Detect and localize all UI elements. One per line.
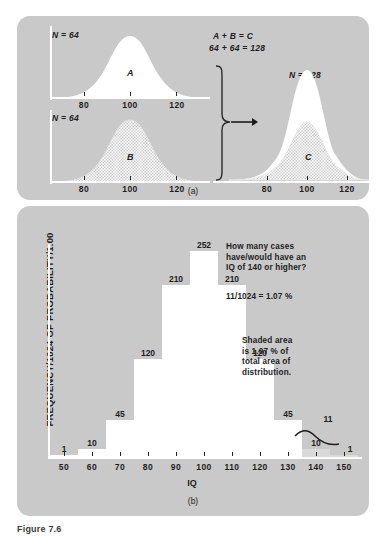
histogram-x-tick-150 — [344, 452, 345, 456]
histogram-x-ticklabel-80: 80 — [136, 462, 160, 472]
histogram-bar-label-60: 10 — [78, 438, 106, 448]
curve-b-tick-80 — [84, 176, 85, 180]
histogram-x-tick-100 — [204, 452, 205, 456]
shaded-note-line-1: Shaded area — [242, 336, 292, 347]
curve-c-ticklabel-120: 120 — [335, 184, 359, 194]
histogram-x-ticklabel-50: 50 — [52, 462, 76, 472]
histogram-x-ticklabel-110: 110 — [220, 462, 244, 472]
histogram-x-ticklabel-100: 100 — [192, 462, 216, 472]
histogram-x-tick-80 — [148, 452, 149, 456]
curve-a-letter: A — [127, 68, 134, 78]
curve-c-letter: C — [305, 152, 312, 162]
curve-c-combined-distribution — [213, 64, 371, 182]
histogram-x-ticklabel-140: 140 — [304, 462, 328, 472]
curve-b-tick-120 — [176, 176, 177, 180]
histogram-bar-label-80: 120 — [134, 348, 162, 358]
histogram-x-tick-90 — [176, 452, 177, 456]
curve-b-ticklabel-80: 80 — [73, 184, 95, 194]
histogram-x-tick-140 — [316, 452, 317, 456]
histogram-x-tick-50 — [64, 452, 65, 456]
pointer-label-11: 11 — [317, 414, 339, 424]
curve-a-tick-120 — [176, 92, 177, 96]
panel-a: A + B = C 64 + 64 = 128 N = 64 80 100 12… — [17, 16, 369, 200]
curve-c-tick-100 — [307, 176, 308, 180]
equation-line-2: 64 + 64 = 128 — [209, 43, 265, 53]
histogram-bar-80 — [134, 359, 162, 457]
figure-caption: Figure 7.6 — [17, 524, 137, 536]
question-note-line-1: How many cases — [226, 242, 306, 253]
histogram-x-axis — [48, 457, 362, 459]
curve-b-normal-distribution — [50, 114, 210, 184]
curve-a-ticklabel-120: 120 — [165, 100, 189, 110]
x-axis-label: IQ — [177, 478, 207, 488]
histogram-x-tick-120 — [260, 452, 261, 456]
question-note-line-2: have/would have an — [226, 253, 306, 264]
histogram-x-tick-60 — [92, 452, 93, 456]
question-note-line-3: IQ of 140 or higher? — [226, 263, 306, 274]
curve-c-ticklabel-80: 80 — [256, 184, 278, 194]
curve-a-ticklabel-100: 100 — [118, 100, 142, 110]
histogram-x-ticklabel-130: 130 — [276, 462, 300, 472]
curve-c-ticklabel-100: 100 — [295, 184, 319, 194]
figure-sheet: A + B = C 64 + 64 = 128 N = 64 80 100 12… — [0, 0, 386, 536]
panel-b-label: (b) — [178, 496, 208, 506]
panel-b: FREQUENCY/1024 OF PROBABILITY/1.00 11045… — [17, 206, 369, 516]
curve-c-x-axis — [213, 181, 371, 183]
shaded-note-line-2: is 1.07 % of — [242, 347, 292, 358]
shaded-area-note: Shaded area is 1.07 % of total area of d… — [242, 336, 292, 378]
curve-a-normal-distribution — [50, 30, 210, 100]
equation-line-1: A + B = C — [213, 31, 253, 41]
histogram-bar-100 — [190, 251, 218, 457]
pointer-line-icon — [293, 424, 349, 450]
histogram-x-ticklabel-150: 150 — [332, 462, 356, 472]
curve-a-ticklabel-80: 80 — [73, 100, 95, 110]
calculation-note: 11/1024 = 1.07 % — [226, 292, 292, 303]
histogram-bar-label-110: 210 — [218, 274, 246, 284]
histogram-bar-label-100: 252 — [190, 240, 218, 250]
histogram-x-tick-130 — [288, 452, 289, 456]
curve-a-tick-100 — [130, 92, 131, 96]
histogram-x-tick-70 — [120, 452, 121, 456]
histogram-x-tick-110 — [232, 452, 233, 456]
shaded-note-line-4: distribution. — [242, 368, 292, 379]
panel-a-label: (a) — [178, 186, 208, 196]
curve-b-tick-100 — [130, 176, 131, 180]
histogram-bar-label-90: 210 — [162, 274, 190, 284]
shaded-note-line-3: total area of — [242, 357, 292, 368]
histogram-bar-90 — [162, 285, 190, 457]
histogram-bar-label-70: 45 — [106, 409, 134, 419]
question-note: How many cases have/would have an IQ of … — [226, 242, 306, 274]
histogram-x-ticklabel-120: 120 — [248, 462, 272, 472]
curve-c-tick-80 — [267, 176, 268, 180]
histogram-x-ticklabel-90: 90 — [164, 462, 188, 472]
curve-a-x-axis — [50, 97, 210, 99]
curve-a-tick-80 — [84, 92, 85, 96]
curve-c-tick-120 — [347, 176, 348, 180]
histogram-y-axis — [48, 244, 50, 459]
curve-b-ticklabel-100: 100 — [118, 184, 142, 194]
histogram-x-ticklabel-60: 60 — [80, 462, 104, 472]
curve-b-letter: B — [127, 152, 134, 162]
histogram-bar-label-130: 45 — [274, 409, 302, 419]
histogram-x-ticklabel-70: 70 — [108, 462, 132, 472]
curve-b-x-axis — [50, 181, 210, 183]
